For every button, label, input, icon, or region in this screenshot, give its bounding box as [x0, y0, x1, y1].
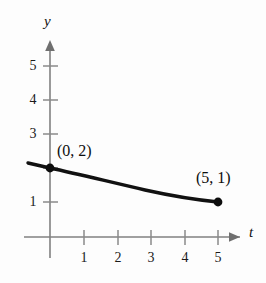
t-tick-label-2: 2	[111, 251, 125, 265]
y-tick-label-5: 5	[26, 59, 40, 73]
t-tick-label-1: 1	[77, 251, 91, 265]
point-label-0-2: (0, 2)	[57, 143, 92, 159]
y-axis-arrowhead	[45, 40, 55, 51]
t-tick-label-5: 5	[211, 251, 225, 265]
plot-canvas	[0, 0, 266, 283]
t-axis-label: t	[249, 225, 253, 240]
y-tick-label-1: 1	[26, 195, 40, 209]
y-tick-label-3: 3	[26, 127, 40, 141]
t-tick-label-4: 4	[178, 251, 192, 265]
decay-curve	[28, 163, 218, 202]
y-axis-label: y	[44, 14, 51, 29]
y-tick-label-4: 4	[26, 93, 40, 107]
t-tick-label-3: 3	[144, 251, 158, 265]
graph-figure: y t 5 4 3 1 1 2 3 4 5 (0, 2) (5, 1)	[0, 0, 266, 283]
data-point-0-2	[46, 164, 55, 173]
t-axis-arrowhead	[229, 232, 240, 242]
point-label-5-1: (5, 1)	[196, 170, 231, 186]
data-point-5-1	[214, 198, 223, 207]
